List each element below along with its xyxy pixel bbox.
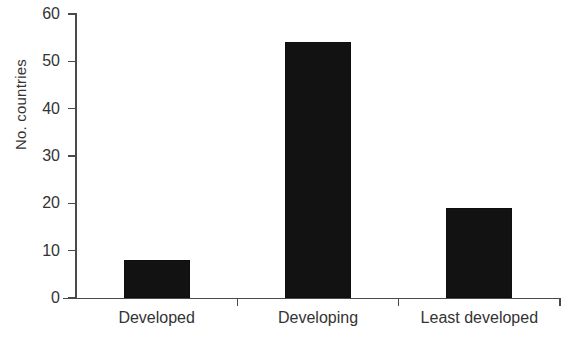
y-axis-tick [68,61,76,62]
y-axis-tick-label-text: 40 [42,101,60,117]
bar-developing [285,42,351,298]
y-axis-tick-label-text: 10 [42,243,60,259]
x-axis-tick [398,298,399,306]
x-axis-category-label: Developing [228,309,408,327]
x-axis-category-label: Least developed [389,309,563,327]
y-axis-title: No. countries [12,35,29,175]
bar-least-developed [446,208,512,298]
y-axis-tick [68,13,76,14]
y-axis-tick-label-text: 20 [42,195,60,211]
x-axis-tick [237,298,238,306]
y-axis-tick [68,203,76,204]
y-axis-tick-label-text: 60 [42,6,60,22]
y-axis-tick-label-text: 0 [51,290,60,306]
bar-developed [124,260,190,298]
x-axis-category-label: Developed [67,309,247,327]
bar-chart: No. countries 6050403020100 DevelopedDev… [0,0,563,339]
y-axis-tick [68,155,76,156]
y-axis-tick [68,250,76,251]
y-axis-tick [68,108,76,109]
y-axis-tick-label-text: 30 [42,148,60,164]
y-axis-tick [68,297,76,298]
x-axis-tick [559,298,560,306]
y-axis-tick-label-text: 50 [42,53,60,69]
